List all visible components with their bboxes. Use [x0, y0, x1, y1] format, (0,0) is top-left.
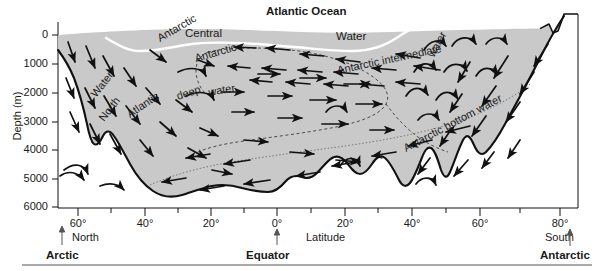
water-label-right: Water — [336, 30, 366, 42]
antarctic-label: Antarctic — [540, 249, 590, 261]
north-label: North — [72, 231, 99, 243]
y-tick-0: 0 — [24, 28, 48, 40]
north-downwelling-hooks — [60, 173, 124, 190]
x-tick-80s: 80° — [546, 217, 574, 229]
x-tick-40s: 40° — [398, 217, 426, 229]
x-tick-60s: 60° — [466, 217, 494, 229]
figure-title: Atlantic Ocean — [266, 5, 347, 17]
x-tick-20s: 20° — [331, 217, 359, 229]
y-tick-3000: 3000 — [12, 115, 48, 127]
x-tick-0: 0° — [264, 217, 290, 229]
arctic-label: Arctic — [46, 249, 79, 261]
x-tick-20n: 20° — [197, 217, 225, 229]
y-axis-ticks — [52, 35, 58, 207]
y-tick-4000: 4000 — [12, 143, 48, 155]
x-tick-60n: 60° — [64, 217, 92, 229]
equator-label: Equator — [246, 249, 289, 261]
y-tick-2000: 2000 — [12, 86, 48, 98]
south-label: South — [545, 231, 574, 243]
ocean-cross-section-figure: Water Antarctic North Atlantic deep wate… — [0, 0, 614, 271]
x-axis-title: Latitude — [306, 231, 345, 243]
y-tick-5000: 5000 — [12, 172, 48, 184]
x-axis-ticks — [78, 208, 560, 216]
x-tick-40n: 40° — [131, 217, 159, 229]
y-tick-1000: 1000 — [12, 57, 48, 69]
central-water-label-left: Central — [185, 27, 222, 39]
y-tick-6000: 6000 — [12, 200, 48, 212]
